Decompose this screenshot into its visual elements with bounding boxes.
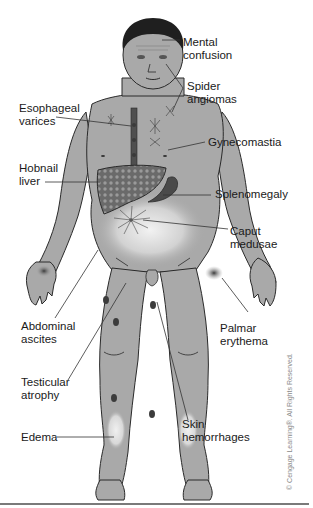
label-abdominal-ascites: Abdominal ascites [21,320,75,346]
label-gynecomastia: Gynecomastia [208,136,282,149]
right-foot [96,480,125,500]
label-palmar-erythema: Palmar erythema [220,322,268,348]
left-hand [250,258,276,306]
copyright-notice: © Cengage Learning®. All Rights Reserved… [286,353,293,490]
label-testicular-atrophy: Testicular atrophy [21,376,70,402]
left-leg [160,268,209,490]
left-foot [183,480,212,500]
label-spider-angiomas: Spider angiomas [187,80,237,106]
label-skin-hemorrhages: Skin hemorrhages [182,418,250,444]
bottom-divider [0,503,309,505]
label-hobnail-liver: Hobnail liver [19,162,58,188]
cirrhosis-diagram: Mental confusion Spider angiomas Esophag… [0,0,313,508]
label-caput-medusae: Caput medusae [230,225,277,251]
label-edema: Edema [21,431,57,444]
label-mental-confusion: Mental confusion [183,36,232,62]
label-esophageal-varices: Esophageal varices [19,102,80,128]
genitals [146,270,158,286]
label-splenomegaly: Splenomegaly [215,188,288,201]
